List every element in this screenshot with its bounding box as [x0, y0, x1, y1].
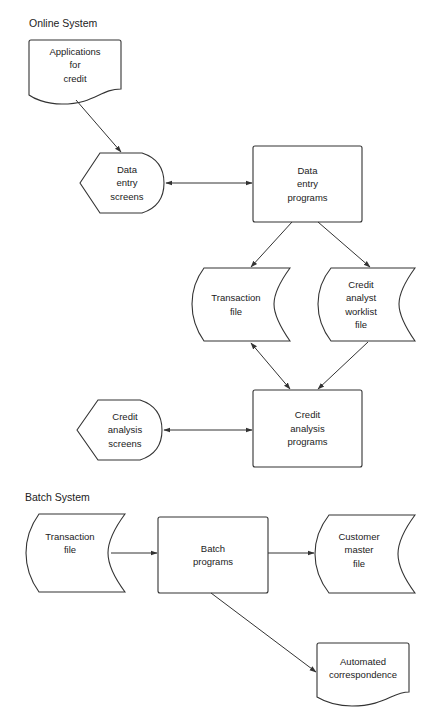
node-label-line: programs	[287, 191, 327, 205]
node-customer-master-file: Customer master file	[318, 515, 400, 585]
node-label-line: analyst	[346, 291, 376, 305]
node-label-line: master	[344, 543, 373, 557]
node-label-line: Credit	[112, 410, 137, 424]
flowchart-canvas	[0, 0, 434, 713]
edge-programs-to-transaction	[251, 222, 292, 267]
node-credit-analyst-worklist-file: Credit analyst worklist file	[321, 268, 401, 341]
node-label-line: correspondence	[329, 668, 397, 682]
node-label-line: file	[353, 557, 365, 571]
node-label-line: Credit	[295, 408, 320, 422]
node-label-line: Transaction	[45, 530, 94, 544]
node-credit-analysis-programs: Credit analysis programs	[253, 390, 362, 467]
node-batch-programs: Batch programs	[158, 517, 268, 593]
node-label-line: screens	[110, 190, 143, 204]
node-transaction-file-batch: Transaction file	[30, 514, 110, 572]
node-label-line: file	[64, 543, 76, 557]
node-label-line: Data	[297, 164, 317, 178]
edge-batch-programs-to-correspondence	[211, 593, 316, 672]
node-label-line: for	[69, 58, 80, 72]
node-label-line: worklist	[345, 305, 377, 319]
node-label-line: Credit	[348, 278, 373, 292]
node-automated-correspondence: Automated correspondence	[317, 650, 409, 686]
node-data-entry-screens: Data entry screens	[92, 155, 162, 211]
node-label-line: credit	[63, 72, 86, 86]
node-label-line: Automated	[340, 655, 386, 669]
edge-transaction-analysis	[251, 343, 290, 389]
edge-applications-to-screens	[76, 100, 121, 152]
section-title-online: Online System	[29, 17, 97, 29]
node-transaction-file-online: Transaction file	[196, 268, 276, 341]
section-title-batch: Batch System	[25, 491, 90, 503]
node-label-line: file	[230, 305, 242, 319]
node-data-entry-programs: Data entry programs	[253, 146, 362, 222]
node-applications-for-credit: Applications for credit	[29, 42, 121, 88]
node-label-line: Customer	[338, 530, 379, 544]
node-label-line: Applications	[49, 45, 100, 59]
node-label-line: screens	[108, 437, 141, 451]
node-label-line: analysis	[290, 422, 324, 436]
node-label-line: programs	[287, 435, 327, 449]
node-label-line: Data	[117, 163, 137, 177]
edge-worklist-to-analysis	[318, 342, 368, 389]
node-label-line: Batch	[201, 542, 225, 556]
node-label-line: entry	[116, 176, 137, 190]
edge-programs-to-worklist	[318, 222, 370, 267]
node-label-line: file	[355, 318, 367, 332]
node-label-line: programs	[193, 555, 233, 569]
node-label-line: analysis	[108, 423, 142, 437]
node-label-line: entry	[297, 177, 318, 191]
node-credit-analysis-screens: Credit analysis screens	[90, 402, 160, 458]
node-label-line: Transaction	[211, 291, 260, 305]
